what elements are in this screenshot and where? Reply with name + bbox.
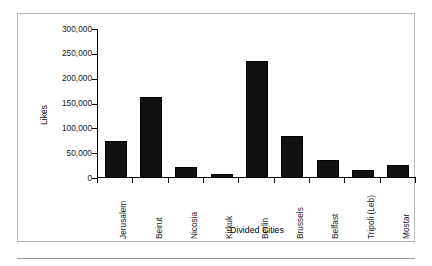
- x-axis-tick-mark: [274, 178, 275, 183]
- x-axis-tick-mark: [309, 178, 310, 183]
- bar: [352, 170, 374, 178]
- y-axis-tick-mark: [92, 104, 97, 105]
- y-axis-tick-mark: [92, 79, 97, 80]
- y-axis-tick-label: 0: [44, 174, 92, 182]
- x-axis-tick-mark: [168, 178, 169, 183]
- x-axis-tick-mark: [238, 178, 239, 183]
- x-axis-tick-mark: [344, 178, 345, 183]
- bar: [140, 97, 162, 178]
- chart-frame: Likes 050,000100,000150,000200,000250,00…: [17, 13, 415, 242]
- plot-area: [98, 29, 416, 178]
- x-axis-tick-mark: [415, 178, 416, 183]
- bar: [246, 61, 268, 178]
- y-axis-tick-label: 300,000: [44, 25, 92, 33]
- y-axis-tick-mark: [92, 29, 97, 30]
- x-axis-tick-mark: [203, 178, 204, 183]
- x-axis-tick-mark: [97, 178, 98, 183]
- x-axis-tick-mark: [132, 178, 133, 183]
- y-axis-tick-mark: [92, 128, 97, 129]
- y-axis-tick-labels: 050,000100,000150,000200,000250,000300,0…: [44, 14, 92, 243]
- bar: [387, 165, 409, 178]
- bar: [105, 141, 127, 178]
- y-axis-tick-label: 250,000: [44, 49, 92, 57]
- y-axis-tick-mark: [92, 54, 97, 55]
- bar: [175, 167, 197, 178]
- y-axis-tick-label: 150,000: [44, 99, 92, 107]
- y-axis-tick-label: 50,000: [44, 149, 92, 157]
- page-horizontal-rule: [17, 258, 415, 259]
- y-axis-tick-label: 100,000: [44, 124, 92, 132]
- x-axis-tick-mark: [380, 178, 381, 183]
- x-axis-title: Divided Cities: [98, 225, 416, 235]
- bar: [317, 160, 339, 178]
- bar: [281, 136, 303, 178]
- bar: [211, 174, 233, 178]
- y-axis-tick-label: 200,000: [44, 74, 92, 82]
- y-axis-tick-mark: [92, 153, 97, 154]
